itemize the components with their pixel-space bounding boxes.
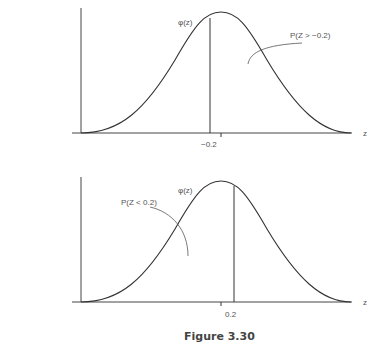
- top-annotation-leader: [248, 43, 302, 64]
- top-ylabel: φ(z): [178, 18, 193, 27]
- figure: φ(z) P(Z > −0.2) z −0.2 φ(z) P(Z < 0.2) …: [0, 0, 384, 355]
- top-xlabel: z: [363, 129, 367, 138]
- bottom-chart: φ(z) P(Z < 0.2) z 0.2: [72, 177, 367, 319]
- figure-caption: Figure 3.30: [184, 330, 255, 343]
- bottom-annotation: P(Z < 0.2): [121, 198, 157, 207]
- bottom-ylabel: φ(z): [178, 186, 193, 195]
- bottom-xlabel: z: [363, 298, 367, 307]
- top-chart: φ(z) P(Z > −0.2) z −0.2: [72, 8, 367, 149]
- top-annotation: P(Z > −0.2): [290, 31, 331, 40]
- bottom-annotation-leader: [150, 207, 188, 256]
- top-tick-label: −0.2: [201, 140, 217, 149]
- bottom-tick-label: 0.2: [225, 310, 237, 319]
